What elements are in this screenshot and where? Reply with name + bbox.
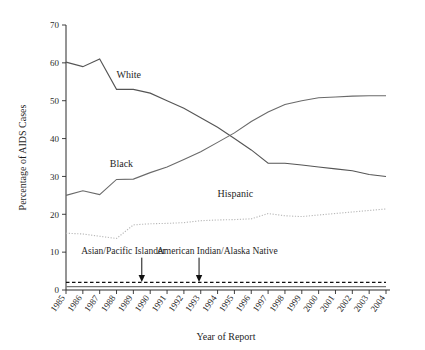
x-tick-label: 1994 [200,293,219,314]
y-tick-label: 50 [50,96,60,106]
x-tick-label: 1992 [166,293,185,313]
x-tick-label: 1988 [99,293,118,314]
annotation-arrow-head [139,275,145,282]
y-tick-label: 20 [50,210,60,220]
x-tick-label: 1990 [133,293,152,314]
x-tick-label: 1986 [65,293,84,314]
series-label-black: Black [110,158,133,169]
x-tick-label: 1995 [217,293,236,314]
x-tick-label: 1993 [183,293,202,314]
y-tick-label: 30 [50,172,60,182]
x-tick-label: 2000 [301,293,320,314]
x-tick-label: 1996 [234,293,253,314]
x-tick-label: 1999 [284,293,303,314]
x-tick-label: 2001 [318,293,337,313]
y-axis-title: Percentage of AIDS Cases [17,104,28,210]
x-tick-label: 1987 [82,293,101,314]
x-tick-label: 1985 [49,293,68,314]
x-tick-label: 1991 [150,293,169,313]
x-tick-label: 1989 [116,293,135,314]
x-tick-label: 1997 [251,293,270,314]
x-tick-label: 2003 [352,293,371,314]
chart-canvas: 0102030405060701985198619871988198919901… [0,0,425,350]
y-tick-label: 70 [50,20,60,30]
y-tick-label: 40 [50,134,60,144]
series-label-hispanic: Hispanic [218,188,254,199]
annotation-label-asian-pacific-islander: Asian/Pacific Islander [81,246,166,256]
x-tick-label: 2002 [335,293,354,313]
series-line-hispanic [66,209,386,239]
y-tick-label: 10 [50,247,60,257]
x-axis-title: Year of Report [197,331,256,342]
series-line-black [66,96,386,196]
annotation-label-american-indian-alaska-native: American Indian/Alaska Native [157,246,278,256]
x-tick-label: 1998 [267,293,286,314]
y-tick-label: 60 [50,58,60,68]
aids-cases-race-ethnicity-line-chart: 0102030405060701985198619871988198919901… [0,0,425,350]
x-tick-label: 2004 [369,293,388,314]
series-label-white: White [117,69,142,80]
annotation-arrow-head [196,275,202,282]
